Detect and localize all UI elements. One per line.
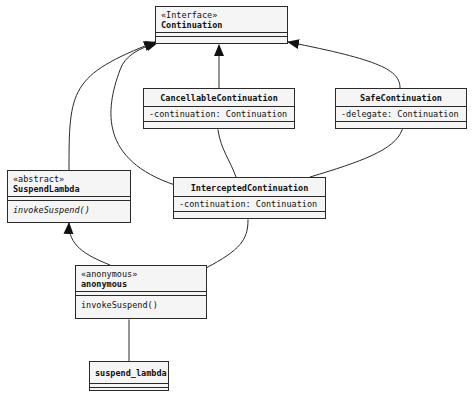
class-suspend-lambda-instance[interactable]: suspend_lambda [89,361,169,391]
methods-section [336,121,466,125]
methods-section [90,387,168,391]
attribute-continuation: -continuation: Continuation [149,109,287,119]
class-name: Continuation [161,20,282,30]
class-safe-continuation[interactable]: SafeContinuation -delegate: Continuation [335,88,467,129]
class-name: CancellableContinuation [149,93,289,103]
class-continuation[interactable]: «Interface» Continuation [155,6,288,44]
class-intercepted-continuation[interactable]: InterceptedContinuation -continuation: C… [173,177,326,219]
edge-anonymous-intercepted [206,220,248,268]
methods-section: invokeSuspend() [8,200,130,217]
attributes-section: -delegate: Continuation [336,106,466,121]
edge-anonymous-to-suspendlambda [69,223,110,265]
method-invoke-suspend: invokeSuspend() [81,300,158,310]
edge-safe-to-continuation [288,42,400,88]
methods-section [144,121,294,125]
edge-intercepted-cancellable [218,130,236,177]
edge-intercepted-safe [310,130,402,177]
methods-section: invokeSuspend() [76,295,206,312]
attributes-section: -continuation: Continuation [144,106,294,121]
stereotype-label: «Interface» [161,10,282,20]
class-cancellable-continuation[interactable]: CancellableContinuation -continuation: C… [143,88,295,129]
stereotype-label: «abstract» [13,174,125,184]
attributes-section: -continuation: Continuation [174,196,325,211]
class-anonymous[interactable]: «anonymous» anonymous invokeSuspend() [75,265,207,319]
class-name: InterceptedContinuation [179,183,320,193]
class-suspend-lambda[interactable]: «abstract» SuspendLambda invokeSuspend() [7,170,131,223]
attribute-delegate: -delegate: Continuation [341,109,459,119]
stereotype-label: «anonymous» [81,269,201,279]
class-name: anonymous [81,279,201,289]
attribute-continuation: -continuation: Continuation [179,199,317,209]
class-name: SuspendLambda [13,184,125,194]
class-name: SafeContinuation [341,93,461,103]
methods-section [156,36,287,40]
method-invoke-suspend: invokeSuspend() [13,205,90,215]
methods-section [174,211,325,215]
class-name: suspend_lambda [95,368,163,378]
